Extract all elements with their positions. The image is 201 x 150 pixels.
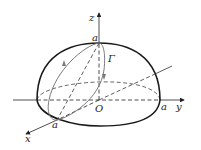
curve-gamma-label: Γ [107,53,116,64]
back-diagonal-line [99,74,155,100]
back-diagonal-line-outer [155,66,172,74]
origin-label: O [95,103,103,114]
hemisphere-dome [37,43,160,100]
equator-back [37,82,160,100]
front-a-label: a [52,119,58,130]
curve-gamma-arrow-icon [62,60,66,66]
top-a-label: a [92,32,98,43]
z-axis-label: z [88,12,95,23]
y-axis-label: y [175,101,182,112]
right-a-label: a [161,101,167,112]
x-axis-label: x [25,133,31,144]
hemisphere-diagram: z a Γ O a y a x [0,0,201,150]
